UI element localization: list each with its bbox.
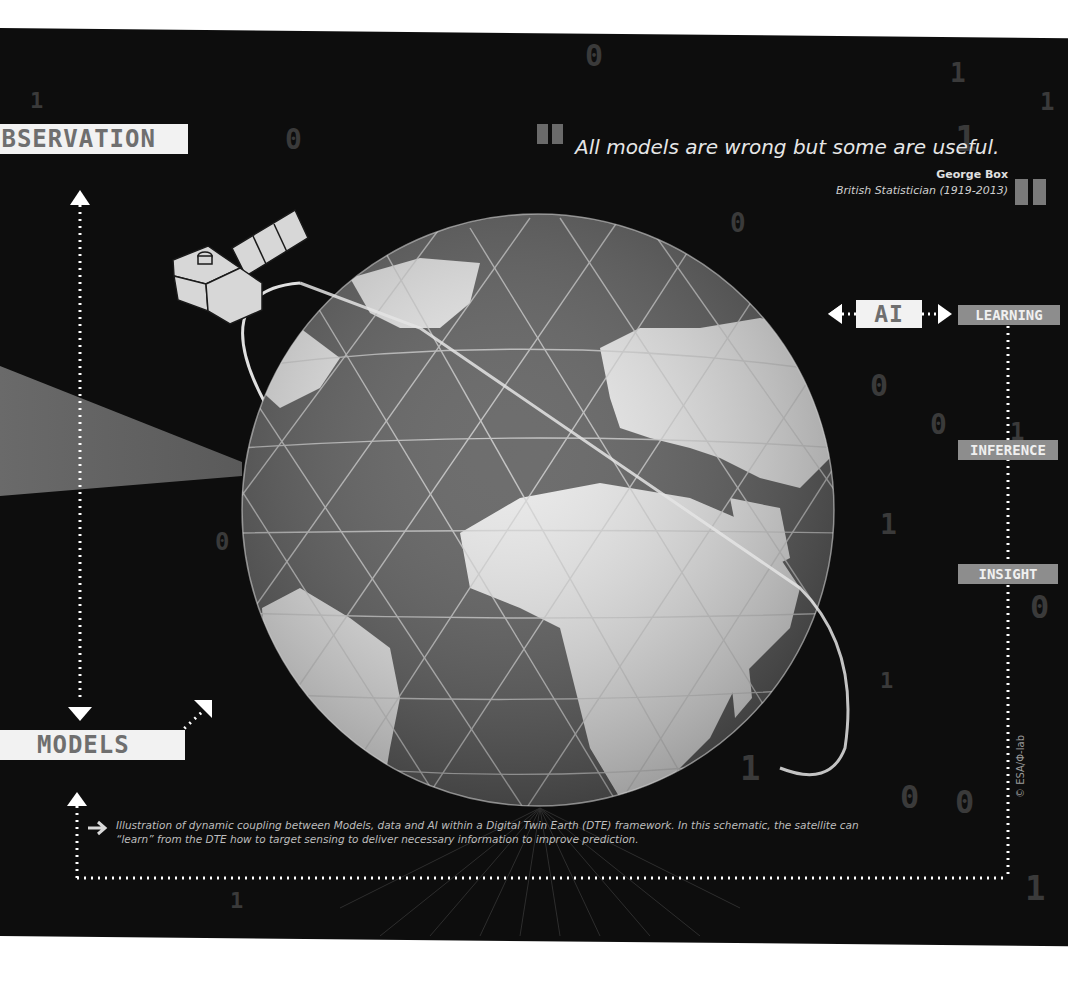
sensing-beam (0, 366, 242, 496)
globe (240, 214, 840, 818)
models-label-text: MODELS (0, 731, 130, 759)
quote-mark-close-icon (1015, 179, 1046, 205)
quote-text: All models are wrong but some are useful… (575, 135, 999, 159)
caption-line-2: “learn” from the DTE how to target sensi… (116, 832, 1016, 846)
inference-tag: INFERENCE (958, 440, 1058, 460)
learning-tag: LEARNING (958, 305, 1060, 325)
quote-author: George Box (936, 168, 1008, 181)
diagram-graphics (0, 28, 1068, 936)
arrow-right-icon (938, 304, 952, 324)
arrow-up-icon (67, 792, 87, 806)
figure-caption: Illustration of dynamic coupling between… (116, 818, 1016, 846)
quote-author-description: British Statistician (1919-2013) (836, 184, 1008, 197)
copyright-credit: © ESA/Φ-lab (1015, 735, 1026, 798)
satellite-icon (173, 210, 308, 324)
arrow-down-icon (68, 707, 92, 721)
caption-line-1: Illustration of dynamic coupling between… (116, 818, 1016, 832)
insight-tag: INSIGHT (958, 564, 1058, 584)
arrow-up-icon (70, 190, 90, 205)
observation-label: OBSERVATION (0, 124, 188, 154)
infographic-panel: 0 1 0 1 0 1 1 0 0 1 0 1 0 1 0 0 1 1 0 1 (0, 28, 1068, 946)
models-label: MODELS (0, 730, 185, 760)
ai-label: AI (856, 300, 922, 328)
observation-label-text: OBSERVATION (0, 125, 156, 153)
arrow-diagonal-icon (194, 700, 212, 718)
arrow-right-icon (88, 822, 105, 834)
arrow-left-icon (828, 304, 842, 324)
quote-mark-open-icon (537, 124, 563, 144)
